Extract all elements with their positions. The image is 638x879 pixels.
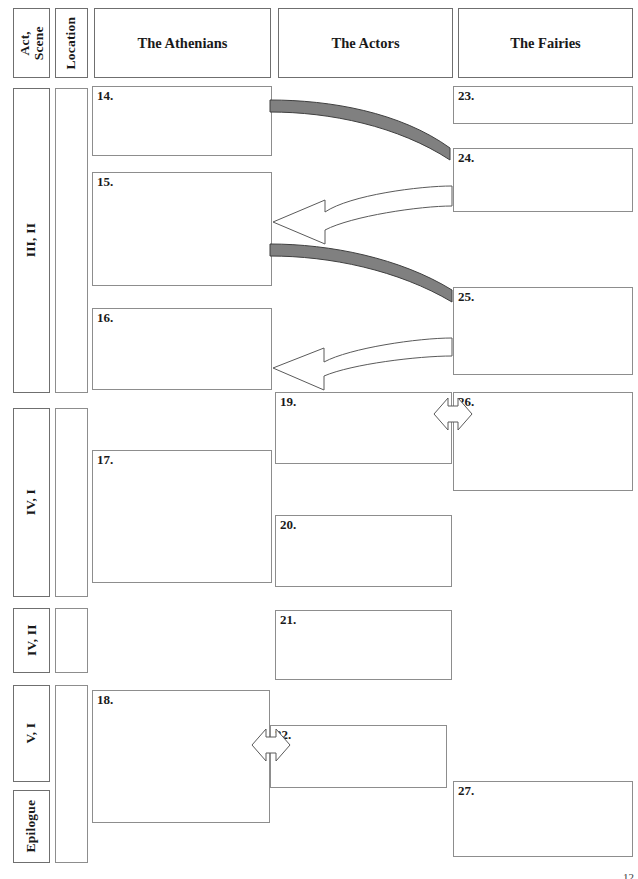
row-label-act-5-scene-1-text: V, I xyxy=(24,723,38,744)
cell-18-number: 18. xyxy=(97,692,113,708)
header-location-label: Location xyxy=(64,17,78,70)
header-act-scene-label: Act, Scene xyxy=(17,26,46,60)
cell-27-number: 27. xyxy=(458,783,474,799)
cell-22-number: 22. xyxy=(275,727,291,743)
location-cell-act-4-scene-1[interactable] xyxy=(55,408,88,597)
cell-20[interactable]: 20. xyxy=(275,515,452,587)
page-number: 12 xyxy=(623,871,634,879)
arrow-25-to-16-icon xyxy=(273,338,452,390)
cell-14-number: 14. xyxy=(97,88,113,104)
row-label-act-4-scene-2-text: IV, II xyxy=(24,625,38,657)
cell-24-number: 24. xyxy=(458,150,474,166)
location-cell-act-4-scene-2[interactable] xyxy=(55,608,88,673)
cell-22[interactable]: 22. xyxy=(270,725,447,788)
cell-23-number: 23. xyxy=(458,88,474,104)
cell-25[interactable]: 25. xyxy=(453,287,633,375)
cell-26-number: 26. xyxy=(458,394,474,410)
row-label-act-5-scene-1: V, I xyxy=(13,685,50,782)
cell-19[interactable]: 19. xyxy=(275,392,452,464)
row-label-act-4-scene-1-text: IV, I xyxy=(24,489,38,515)
row-label-act-4-scene-2: IV, II xyxy=(13,608,50,673)
header-column-actors-label: The Actors xyxy=(278,8,453,78)
cell-17[interactable]: 17. xyxy=(92,450,272,583)
header-location: Location xyxy=(55,8,88,78)
arrow-15-to-25-icon xyxy=(270,244,452,302)
cell-19-number: 19. xyxy=(280,394,296,410)
cell-15-number: 15. xyxy=(97,174,113,190)
cell-17-number: 17. xyxy=(97,452,113,468)
header-column-fairies-label: The Fairies xyxy=(458,8,633,78)
header-column-athenians-label: The Athenians xyxy=(94,8,271,78)
cell-14[interactable]: 14. xyxy=(92,86,272,156)
arrow-14-to-24-icon xyxy=(270,100,450,160)
cell-23[interactable]: 23. xyxy=(453,86,633,124)
location-cell-act-3-scene-2[interactable] xyxy=(55,88,88,393)
row-label-act-3-scene-2-text: III, II xyxy=(24,223,38,257)
header-act-scene: Act, Scene xyxy=(13,8,50,78)
row-label-epilogue-text: Epilogue xyxy=(24,800,38,853)
cell-18[interactable]: 18. xyxy=(92,690,270,823)
cell-21-number: 21. xyxy=(280,612,296,628)
cell-16[interactable]: 16. xyxy=(92,308,272,390)
arrow-24-to-15-icon xyxy=(273,186,452,244)
location-cell-act-5-epilogue[interactable] xyxy=(55,685,88,863)
cell-16-number: 16. xyxy=(97,310,113,326)
cell-15[interactable]: 15. xyxy=(92,172,272,286)
cell-25-number: 25. xyxy=(458,289,474,305)
cell-20-number: 20. xyxy=(280,517,296,533)
cell-27[interactable]: 27. xyxy=(453,781,633,857)
row-label-act-4-scene-1: IV, I xyxy=(13,408,50,597)
cell-21[interactable]: 21. xyxy=(275,610,452,680)
row-label-epilogue: Epilogue xyxy=(13,790,50,863)
cell-24[interactable]: 24. xyxy=(453,148,633,212)
cell-26[interactable]: 26. xyxy=(453,392,633,491)
row-label-act-3-scene-2: III, II xyxy=(13,88,50,393)
